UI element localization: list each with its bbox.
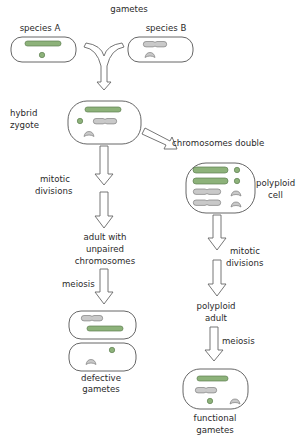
- grey-chromosome-long: [195, 388, 216, 393]
- species-a-gamete-cell: [11, 37, 76, 62]
- green-chromosome-long: [197, 376, 228, 381]
- green-chromosome-dot: [207, 398, 212, 403]
- label-meiosis-right: meiosis: [222, 336, 255, 346]
- down-arrow-mitotic-right-1: [208, 215, 226, 250]
- label-polyploid-adult-1: polyploid: [196, 301, 235, 311]
- label-polyploid-cell-1: polyploid: [256, 178, 295, 188]
- grey-chromosome-long: [193, 189, 220, 194]
- label-defective-2: gametes: [82, 384, 120, 394]
- label-species-a: species A: [20, 23, 61, 33]
- merge-arrow: [84, 43, 124, 90]
- green-chromosome-long: [85, 107, 121, 112]
- label-adult-unpaired-1: adult with: [84, 232, 127, 242]
- label-functional-1: functional: [194, 413, 237, 423]
- green-chromosome-long: [25, 41, 61, 46]
- label-chromosomes-double: chromosomes double: [172, 138, 264, 148]
- label-polyploid-adult-2: adult: [205, 313, 228, 323]
- label-gametes: gametes: [110, 4, 148, 14]
- species-b-gamete-cell: [128, 37, 193, 62]
- label-mitotic-left-1: mitotic: [40, 174, 70, 184]
- green-chromosome-dot: [109, 347, 114, 352]
- defective-gamete-cell-1: [69, 311, 136, 339]
- label-functional-2: gametes: [196, 425, 234, 435]
- green-chromosome-long: [193, 167, 228, 173]
- label-hybrid-zygote-1: hybrid: [10, 108, 37, 118]
- label-mitotic-right-1: mitotic: [230, 246, 260, 256]
- defective-gamete-cell-2: [69, 343, 136, 371]
- green-chromosome-dot: [39, 52, 44, 57]
- label-species-b: species B: [146, 23, 187, 33]
- down-arrow-meiosis-left: [95, 269, 113, 304]
- polyploidy-diagram: gametes species A species B hybrid zygot…: [0, 0, 302, 442]
- hybrid-zygote-cell: [68, 101, 141, 144]
- label-mitotic-right-2: divisions: [226, 258, 264, 268]
- grey-chromosome-long: [193, 200, 220, 205]
- label-adult-unpaired-2: unpaired: [86, 244, 124, 254]
- polyploid-cell: [186, 163, 255, 213]
- green-chromosome-long: [87, 326, 123, 331]
- green-chromosome-dot: [77, 118, 82, 123]
- green-chromosome-dot: [234, 167, 239, 172]
- down-arrow-meiosis-right: [205, 327, 223, 361]
- label-defective-1: defective: [81, 373, 121, 383]
- green-chromosome-long: [193, 178, 228, 184]
- down-arrow-mitotic-left-1: [95, 146, 113, 185]
- label-polyploid-cell-2: cell: [268, 190, 283, 200]
- label-hybrid-zygote-2: zygote: [10, 120, 39, 130]
- label-adult-unpaired-3: chromosomes: [75, 256, 136, 266]
- functional-gamete-cell: [183, 369, 248, 409]
- down-arrow-mitotic-right-2: [208, 260, 226, 296]
- grey-chromosome-long: [81, 316, 102, 321]
- label-meiosis-left: meiosis: [62, 279, 95, 289]
- grey-chromosome-long: [143, 42, 166, 47]
- label-mitotic-left-2: divisions: [35, 186, 73, 196]
- grey-chromosome-long: [93, 119, 116, 124]
- down-arrow-mitotic-left-2: [95, 192, 113, 228]
- green-chromosome-dot: [234, 178, 239, 183]
